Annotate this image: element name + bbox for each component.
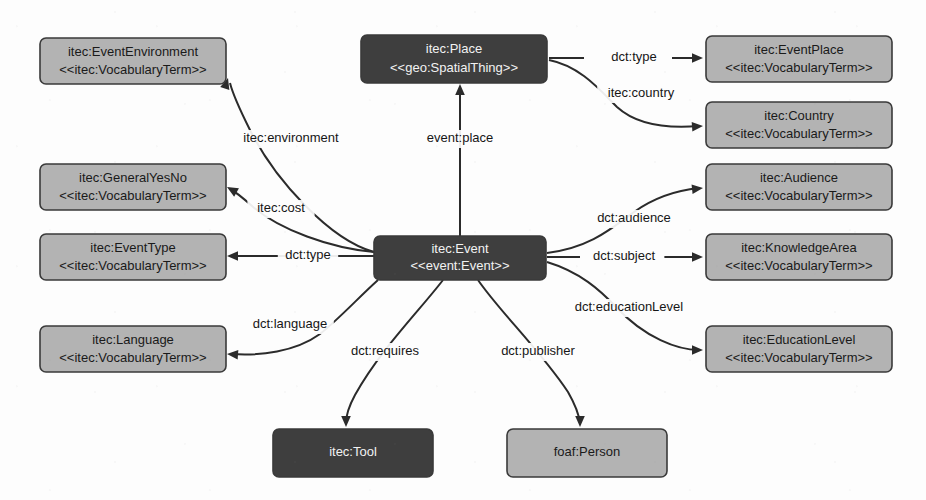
arrowhead-icon [575, 416, 585, 427]
arrowhead-icon [227, 349, 239, 359]
node-stereotype-label: <<itec:VocabularyTerm>> [725, 188, 872, 203]
node-stereotype-label: <<itec:VocabularyTerm>> [59, 62, 206, 77]
edge-line [230, 83, 374, 252]
node-tool[interactable]: itec:Tool [273, 429, 433, 477]
node-name-label: itec:Event [431, 241, 488, 256]
edge-label-edge-event-place: event:place [427, 130, 494, 145]
node-stereotype-label: <<itec:VocabularyTerm>> [59, 258, 206, 273]
node-event-environment[interactable]: itec:EventEnvironment<<itec:VocabularyTe… [40, 38, 226, 84]
arrowhead-icon [692, 252, 703, 262]
edge-label-edge-itec-environment: itec:environment [243, 130, 339, 145]
node-stereotype-label: <<event:Event>> [410, 258, 509, 273]
node-stereotype-label: <<itec:VocabularyTerm>> [725, 60, 872, 75]
node-stereotype-label: <<itec:VocabularyTerm>> [59, 350, 206, 365]
uml-diagram-svg: itec:EventEnvironment<<itec:VocabularyTe… [0, 0, 926, 500]
node-person[interactable]: foaf:Person [507, 429, 667, 477]
edge-label-edge-dct-language: dct:language [253, 316, 327, 331]
edge-label-layer: dct:typeitec:countryitec:environmenteven… [234, 49, 694, 361]
node-name-label: itec:KnowledgeArea [741, 240, 857, 255]
arrowhead-icon [692, 121, 704, 131]
node-name-label: itec:EventType [90, 240, 175, 255]
node-stereotype-label: <<itec:VocabularyTerm>> [725, 126, 872, 141]
node-place[interactable]: itec:Place<<geo:SpatialThing>> [361, 35, 547, 83]
node-name-label: itec:EventPlace [754, 42, 844, 57]
node-stereotype-label: <<itec:VocabularyTerm>> [725, 258, 872, 273]
arrowhead-icon [692, 345, 703, 355]
node-name-label: itec:Tool [329, 444, 377, 459]
node-knowledge-area[interactable]: itec:KnowledgeArea<<itec:VocabularyTerm>… [706, 234, 892, 280]
node-stereotype-label: <<itec:VocabularyTerm>> [725, 350, 872, 365]
node-education-level[interactable]: itec:EducationLevel<<itec:VocabularyTerm… [706, 326, 892, 372]
arrowhead-icon [692, 53, 703, 63]
arrowhead-icon [692, 183, 704, 194]
node-language[interactable]: itec:Language<<itec:VocabularyTerm>> [40, 326, 226, 372]
edge-label-edge-itec-country: itec:country [608, 85, 675, 100]
edge-label-edge-dct-publisher: dct:publisher [501, 343, 575, 358]
edge-label-edge-dct-audience: dct:audience [597, 210, 671, 225]
edge-label-edge-dct-type-place: dct:type [611, 49, 657, 64]
edge-label-edge-dct-type-event: dct:type [285, 247, 331, 262]
node-event-place[interactable]: itec:EventPlace<<itec:VocabularyTerm>> [706, 36, 892, 82]
uml-diagram-canvas: itec:EventEnvironment<<itec:VocabularyTe… [0, 0, 926, 500]
node-name-label: itec:Place [426, 41, 482, 56]
arrowhead-icon [455, 84, 465, 95]
node-name-label: itec:EducationLevel [743, 332, 856, 347]
node-layer: itec:EventEnvironment<<itec:VocabularyTe… [40, 35, 892, 477]
node-name-label: itec:EventEnvironment [68, 44, 198, 59]
node-name-label: itec:Language [92, 332, 174, 347]
edge-edge-itec-environment [220, 77, 374, 252]
node-name-label: itec:Audience [760, 170, 838, 185]
node-event[interactable]: itec:Event<<event:Event>> [374, 236, 546, 280]
edge-label-edge-itec-cost: itec:cost [257, 200, 305, 215]
arrowhead-icon [227, 251, 238, 261]
node-stereotype-label: <<itec:VocabularyTerm>> [59, 188, 206, 203]
node-name-label: foaf:Person [554, 444, 621, 459]
node-general-yes-no[interactable]: itec:GeneralYesNo<<itec:VocabularyTerm>> [40, 164, 226, 210]
edge-label-edge-dct-education-level: dct:educationLevel [575, 299, 684, 314]
arrowhead-icon [341, 416, 351, 427]
node-audience[interactable]: itec:Audience<<itec:VocabularyTerm>> [706, 164, 892, 210]
node-stereotype-label: <<geo:SpatialThing>> [390, 60, 518, 75]
node-event-type[interactable]: itec:EventType<<itec:VocabularyTerm>> [40, 234, 226, 280]
node-country[interactable]: itec:Country<<itec:VocabularyTerm>> [706, 102, 892, 148]
edge-label-edge-dct-subject: dct:subject [593, 248, 656, 263]
edge-edge-event-place [455, 84, 465, 236]
node-name-label: itec:GeneralYesNo [79, 170, 187, 185]
edge-label-edge-dct-requires: dct:requires [351, 343, 419, 358]
node-name-label: itec:Country [764, 108, 834, 123]
